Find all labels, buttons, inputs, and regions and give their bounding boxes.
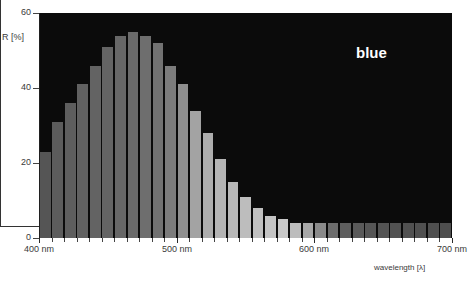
bar (365, 223, 376, 238)
bar (440, 223, 451, 238)
x-axis-tick (139, 238, 140, 242)
x-axis-tick-label: 600 nm (299, 244, 329, 254)
x-axis-tick (364, 238, 365, 242)
y-axis-tick-label: 0 (0, 232, 31, 242)
plot-area (39, 13, 452, 238)
x-axis-major-tick (452, 238, 453, 243)
bar (77, 84, 88, 238)
x-axis-tick (352, 238, 353, 242)
bar (190, 111, 201, 239)
x-axis-tick (389, 238, 390, 242)
x-axis-tick-label: 400 nm (24, 244, 54, 254)
bar (115, 36, 126, 239)
bar (228, 182, 239, 238)
bar (153, 43, 164, 238)
chart-figure: 0204060 400 nm500 nm600 nm700 nm R [%] w… (0, 0, 469, 285)
x-axis-major-tick (314, 238, 315, 243)
x-axis-tick (152, 238, 153, 242)
bar (415, 223, 426, 238)
bar (353, 223, 364, 238)
x-axis-tick-label: 500 nm (162, 244, 192, 254)
series-annotation-blue: blue (356, 44, 387, 61)
y-axis-title: R [%] (2, 32, 24, 42)
bar (165, 66, 176, 239)
x-axis-tick (377, 238, 378, 242)
x-axis-tick (414, 238, 415, 242)
bar (90, 66, 101, 239)
bar (203, 133, 214, 238)
y-axis-tick (33, 13, 39, 14)
x-axis-major-tick (177, 238, 178, 243)
x-axis-tick (227, 238, 228, 242)
y-axis-tick-label: 60 (0, 7, 31, 17)
x-axis-tick (114, 238, 115, 242)
bar (390, 223, 401, 238)
x-axis-tick (77, 238, 78, 242)
y-axis-tick (33, 163, 39, 164)
bar (253, 208, 264, 238)
x-axis-tick (402, 238, 403, 242)
x-axis-tick (427, 238, 428, 242)
bar (240, 197, 251, 238)
bar (265, 216, 276, 239)
bar (315, 223, 326, 238)
x-axis-tick (264, 238, 265, 242)
bar-series (39, 13, 452, 238)
bar (52, 122, 63, 238)
bar (303, 223, 314, 238)
x-axis-tick (214, 238, 215, 242)
x-axis-major-tick (39, 238, 40, 243)
bar (140, 36, 151, 239)
bar (40, 152, 51, 238)
bar (328, 223, 339, 238)
y-axis-tick-label: 20 (0, 157, 31, 167)
x-axis-tick (102, 238, 103, 242)
x-axis-title: wavelength [λ] (374, 263, 425, 272)
bar (215, 159, 226, 238)
x-axis-tick (277, 238, 278, 242)
x-axis-tick (164, 238, 165, 242)
x-axis-tick (239, 238, 240, 242)
x-axis-tick (64, 238, 65, 242)
x-axis-tick (202, 238, 203, 242)
bar (403, 223, 414, 238)
bar (290, 223, 301, 238)
bar (428, 223, 439, 238)
x-axis-tick-label: 700 nm (437, 244, 467, 254)
bar (128, 32, 139, 238)
x-axis-tick (252, 238, 253, 242)
y-axis-tick (33, 88, 39, 89)
bar (278, 219, 289, 238)
x-axis-tick (127, 238, 128, 242)
bar (102, 47, 113, 238)
x-axis-tick (52, 238, 53, 242)
x-axis-tick (302, 238, 303, 242)
x-axis-tick (439, 238, 440, 242)
y-axis-tick-label: 40 (0, 82, 31, 92)
y-axis-line (0, 0, 1, 226)
x-axis-tick (189, 238, 190, 242)
bar (65, 103, 76, 238)
x-axis-tick (289, 238, 290, 242)
bar (178, 84, 189, 238)
bar (378, 223, 389, 238)
bar (340, 223, 351, 238)
x-axis-tick (89, 238, 90, 242)
x-axis-tick (327, 238, 328, 242)
x-axis-tick (339, 238, 340, 242)
